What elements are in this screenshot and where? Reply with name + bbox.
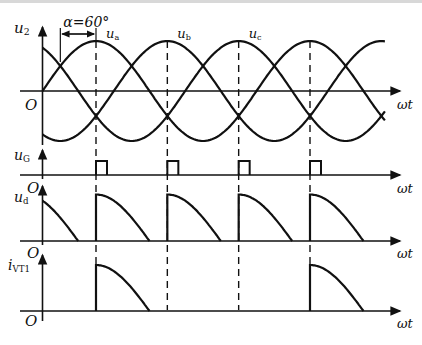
ud-segment [43,201,79,241]
alpha-label: α=60° [63,14,109,30]
gate-pulse [239,161,250,175]
iVT1-segment [310,265,364,311]
iVT1-origin-label: O [25,312,37,330]
u2-x-label: ωt [397,97,414,112]
ud-segment [167,195,221,242]
iVT1-x-label: ωt [397,316,414,331]
u2-axis-label: u2 [14,19,30,37]
gate-pulse [96,161,107,175]
waveform-figure: α=60°u2OωtuaubucuGOωtudOωtiVT1Oωt [0,0,422,345]
iVT1-segment [96,265,150,311]
phase-label-c: uc [249,26,262,42]
uG-axis-label: uG [14,147,30,164]
uG-x-label: ωt [397,181,414,196]
gate-pulse [310,161,321,175]
ud-segment [96,195,150,242]
phase-label-a: ua [106,26,119,42]
ud-segment [310,195,364,242]
uG-origin-label: O [27,179,39,197]
ud-x-label: ωt [397,246,414,261]
u2-origin-label: O [25,96,37,114]
ud-origin-label: O [27,244,39,262]
gate-pulse [167,161,178,175]
phase-label-b: ub [177,26,191,42]
ud-segment [239,195,293,242]
